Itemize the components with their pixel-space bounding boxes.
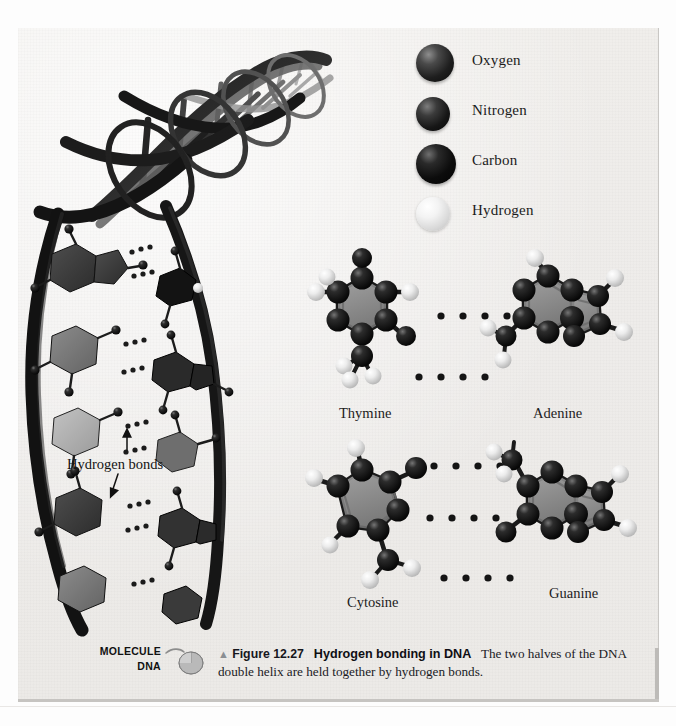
atom-legend: Oxygen Nitrogen Carbon Hydrogen <box>416 44 596 244</box>
page-rule <box>18 699 659 702</box>
molecule-cytosine <box>305 439 427 589</box>
legend-item-carbon: Carbon <box>416 144 596 194</box>
legend-item-hydrogen: Hydrogen <box>416 194 596 244</box>
hydrogen-bonds-annotation: Hydrogen bonds <box>67 456 163 473</box>
molecule-adenine <box>480 249 634 369</box>
helix-receding-top <box>40 44 335 233</box>
legend-label-hydrogen: Hydrogen <box>472 202 534 219</box>
molecule-thymine <box>307 248 419 389</box>
page-rule-secondary <box>0 706 676 707</box>
sphere-oxygen-icon <box>416 44 454 82</box>
legend-label-oxygen: Oxygen <box>472 52 521 69</box>
dna-unwound-region <box>30 206 233 630</box>
media-badge-name: DNA <box>137 660 161 672</box>
figure-caption: ▲ Figure 12.27 Hydrogen bonding in DNA T… <box>218 645 628 680</box>
sphere-carbon-icon <box>416 144 456 184</box>
legend-label-nitrogen: Nitrogen <box>472 102 527 119</box>
media-badge-kind: MOLECULE <box>100 645 161 657</box>
legend-label-carbon: Carbon <box>472 152 517 169</box>
base-label-guanine: Guanine <box>549 585 598 602</box>
caption-triangle-icon: ▲ <box>218 648 229 660</box>
base-label-cytosine: Cytosine <box>347 594 399 611</box>
hbond-thymine-adenine <box>415 312 510 380</box>
plate-right-edge <box>655 648 659 700</box>
caption-title: Hydrogen bonding in DNA <box>314 647 471 661</box>
molecule-guanine <box>486 442 638 543</box>
figure-page: Oxygen Nitrogen Carbon Hydrogen Thymine … <box>0 0 676 726</box>
sphere-nitrogen-icon <box>416 97 450 131</box>
sphere-hydrogen-icon <box>416 197 450 231</box>
computer-mouse-icon <box>162 647 206 677</box>
legend-item-nitrogen: Nitrogen <box>416 94 596 144</box>
caption-number: Figure 12.27 <box>232 647 304 661</box>
base-label-adenine: Adenine <box>533 405 582 422</box>
base-label-thymine: Thymine <box>339 405 391 422</box>
media-badge[interactable]: MOLECULE DNA <box>100 645 205 679</box>
legend-item-oxygen: Oxygen <box>416 44 596 94</box>
